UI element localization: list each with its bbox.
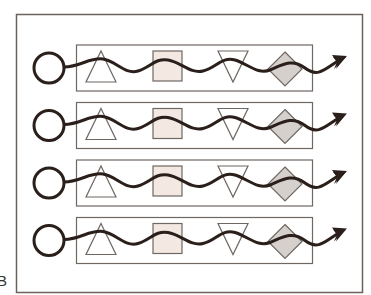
pathway-row-1 [34,45,347,91]
square-shape [153,166,182,196]
pathway-row-3 [34,160,347,206]
triangle-down-shape [218,224,248,255]
pathway-row-4 [34,218,347,264]
panel-label: B [0,272,7,289]
triangle-up-shape [86,51,116,82]
start-circle [34,226,64,256]
triangle-down-shape [218,109,248,140]
outer-frame [17,15,363,293]
square-shape [153,224,182,254]
start-circle [34,111,64,141]
square-shape [153,109,182,139]
triangle-down-shape [218,166,248,197]
diagram-canvas [0,0,371,295]
triangle-up-shape [86,166,116,197]
start-circle [34,168,64,198]
pathway-row-2 [34,103,347,149]
triangle-up-shape [86,224,116,255]
square-shape [153,51,182,81]
triangle-down-shape [218,51,248,82]
start-circle [34,53,64,83]
triangle-up-shape [86,109,116,140]
